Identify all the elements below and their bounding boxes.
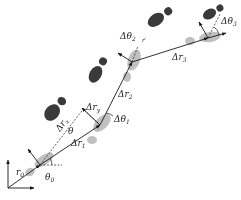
label-dry: Δry — [85, 102, 101, 114]
normal-0 — [28, 149, 40, 165]
label-rprime: r′ — [142, 36, 147, 43]
footstep-trajectory-diagram: r0 θ0 Δr1 Δθ1 Δry Δrx θ Δr2 Δθ2 r′ Δr3 Δ… — [0, 0, 241, 200]
shoe-print-2 — [86, 55, 110, 85]
label-theta: θ — [68, 126, 74, 136]
label-dr2: Δr2 — [117, 89, 133, 100]
label-dtheta2: Δθ2 — [119, 31, 136, 42]
light-footprint-0 — [32, 150, 56, 171]
light-footprint-2 — [125, 48, 144, 73]
light-footprint-1b — [87, 136, 97, 144]
label-dtheta3: Δθ3 — [220, 16, 237, 27]
label-r0: r0 — [16, 167, 24, 178]
label-dr3: Δr3 — [171, 52, 187, 63]
label-dtheta1: Δθ1 — [113, 114, 130, 125]
shoe-print-3 — [145, 4, 175, 30]
label-dr1: Δr1 — [70, 138, 86, 149]
label-theta0: θ0 — [45, 172, 54, 183]
